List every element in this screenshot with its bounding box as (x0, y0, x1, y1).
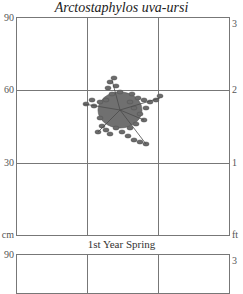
left-axis-tick: 90 (0, 13, 14, 23)
plant-title: Arctostaphylos uva-ursi (0, 0, 243, 16)
grid-vline (158, 255, 159, 293)
right-axis-tick: 3 (232, 256, 237, 266)
left-axis-tick: 30 (0, 158, 14, 168)
growth-plot-grid-2 (16, 254, 230, 294)
left-axis-tick: 60 (0, 85, 14, 95)
grid-hline (17, 163, 229, 164)
right-axis-tick: 3 (232, 19, 237, 29)
season-label: 1st Year Spring (0, 238, 243, 251)
right-axis-tick: 1 (232, 158, 237, 168)
grid-vline (87, 255, 88, 293)
right-axis-tick: 2 (232, 85, 237, 95)
left-axis-tick: 90 (0, 250, 14, 260)
shrub-illustration (72, 70, 168, 150)
